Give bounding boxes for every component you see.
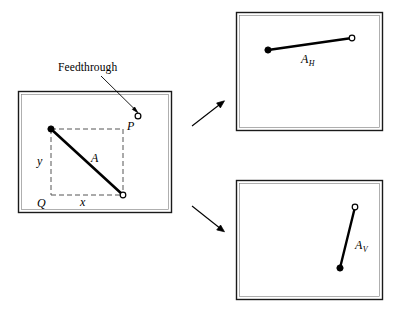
label-point-q: Q [37,197,46,209]
label-extent-y: y [37,155,42,167]
arrow-to-horizontal-shaft [192,104,221,127]
label-antenna-ah-subscript: H [309,59,315,68]
label-antenna-av-subscript: V [363,245,368,254]
label-extent-x: x [80,196,85,208]
feedthrough-label: Feedthrough [58,62,117,74]
antenna-ah-end-node [349,35,355,41]
label-antenna-av: AV [355,239,367,251]
decomposition-arrows [192,101,225,232]
arrow-to-vertical-shaft [192,206,221,229]
feedthrough-terminal-node [135,113,141,119]
antenna-av-start-node [337,265,343,271]
label-point-p: P [127,120,134,132]
arrow-to-horizontal-head [217,101,225,108]
horizontal-box-group [237,13,383,131]
label-antenna-a: A [91,152,98,164]
diagram-canvas [0,0,399,311]
label-antenna-ah-base: A [301,52,308,66]
label-antenna-av-base: A [355,238,362,252]
antenna-av-end-node [352,204,358,210]
figure-container: Feedthrough P Q A x y AH AV [0,0,399,311]
antenna-ah-start-node [265,47,271,53]
label-antenna-ah: AH [301,53,314,65]
horizontal-box-outline [237,13,383,131]
antenna-a-end-node [120,192,126,198]
antenna-a-start-node [48,126,54,132]
